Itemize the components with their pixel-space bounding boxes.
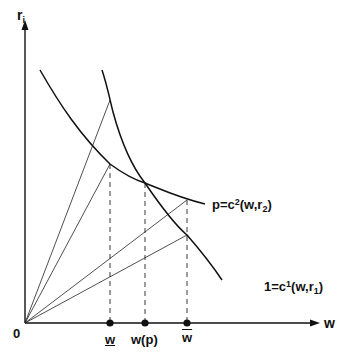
ray-to-c2-at-w-low	[25, 164, 110, 323]
c2-label-post: )	[267, 197, 271, 212]
ray-to-c2-at-w-high	[25, 200, 187, 323]
c2-label-mid: (w,r	[240, 197, 263, 212]
y-axis-label-sub: i	[22, 15, 25, 25]
ray-to-c1-at-w-low	[25, 100, 110, 323]
dot-w-p	[141, 319, 148, 326]
curves	[40, 70, 222, 280]
curve-label-c2: p=c2(w,r2)	[212, 198, 272, 211]
c1-label-sub: 1	[314, 286, 319, 296]
tick-label-w-low: w	[105, 333, 115, 346]
tick-label-w-p: w(p)	[131, 333, 158, 346]
curve-c2	[40, 70, 205, 204]
tick-label-w-high: w	[182, 331, 192, 344]
c1-label-pre: 1=c	[264, 279, 286, 294]
factor-price-diagram	[0, 0, 358, 354]
rays	[25, 100, 187, 323]
dot-w-low	[106, 319, 113, 326]
c1-label-post: )	[319, 279, 323, 294]
dot-w-high	[183, 319, 190, 326]
c1-label-sup: 1	[286, 279, 291, 289]
curve-label-c1: 1=c1(w,r1)	[264, 280, 323, 293]
c2-label-sub: 2	[262, 204, 267, 214]
x-axis-label: w	[324, 316, 335, 330]
origin-label: 0	[13, 327, 20, 340]
c1-label-mid: (w,r	[291, 279, 314, 294]
y-axis-label: ri	[17, 8, 25, 22]
ray-to-c1-at-w-high	[25, 235, 187, 323]
c2-label-pre: p=c	[212, 197, 235, 212]
x-axis-arrow-icon	[310, 320, 320, 327]
c2-label-sup: 2	[235, 197, 240, 207]
